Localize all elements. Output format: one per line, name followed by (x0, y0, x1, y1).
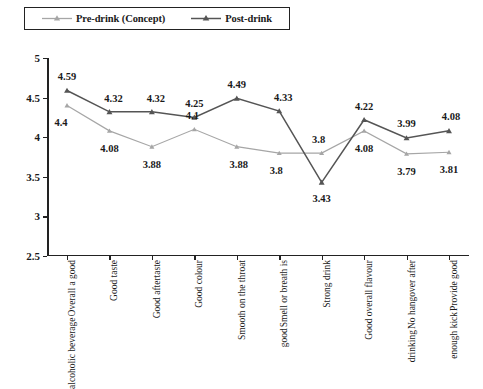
series-line (67, 106, 449, 154)
x-category-label-line: good (279, 328, 290, 347)
x-category-label-line: Smell or breath is (279, 260, 290, 327)
y-tick-label: 4.5 (26, 92, 40, 104)
x-category-label-line: enough kick (449, 312, 460, 359)
x-category-label-line: Provide good (449, 260, 460, 311)
value-label: 4.4 (54, 116, 67, 127)
x-category-label-line: Good colour (194, 260, 205, 308)
x-category-label: Good overall flavour (364, 260, 375, 340)
x-category-label-line: drinking (407, 330, 418, 362)
legend-label-pre-drink: Pre-drink (Concept) (76, 13, 165, 24)
y-tick-label: 3.5 (26, 171, 40, 183)
series-pre-drink (64, 103, 451, 156)
value-label: 3.79 (397, 165, 415, 176)
value-label: 4.32 (104, 92, 122, 103)
value-label: 4.25 (185, 98, 203, 109)
x-category-label: Good taste (109, 260, 120, 301)
value-label: 3.88 (143, 158, 161, 169)
value-label: 3.8 (270, 165, 283, 176)
x-category-label: Smell or breath isgood (279, 260, 290, 347)
x-category-label: Strong drink (322, 260, 333, 308)
x-category-label: Overall a goodalcoholic beverage (67, 260, 78, 389)
x-category-label-line: alcoholic beverage (67, 317, 78, 388)
data-point-marker (64, 103, 69, 107)
x-category-label: Smooth on the throat (237, 260, 248, 340)
y-tick-label: 4 (35, 131, 41, 143)
y-tick-label: 5 (35, 52, 41, 64)
value-label: 3.8 (312, 134, 325, 145)
x-category-label-line: Strong drink (322, 260, 333, 308)
x-category-label-line: Smooth on the throat (237, 260, 248, 340)
value-label: 4.59 (58, 71, 76, 82)
series-lines (47, 58, 469, 256)
x-category-label-line: Good overall flavour (364, 260, 375, 340)
value-label: 4.08 (442, 110, 460, 121)
y-tick-mark (43, 256, 47, 257)
y-tick-label: 3 (35, 210, 41, 222)
value-label: 3.99 (397, 117, 415, 128)
x-axis-category-labels: Overall a goodalcoholic beverageGood tas… (47, 260, 469, 364)
value-label: 4.1 (186, 110, 199, 121)
y-tick-label: 2.5 (26, 250, 40, 262)
value-label: 4.33 (274, 92, 292, 103)
legend-marker-pre-drink (42, 14, 72, 23)
x-category-label-line: Good taste (109, 260, 120, 301)
value-label: 3.43 (312, 193, 330, 204)
chart-legend: Pre-drink (Concept) Post-drink (24, 7, 290, 30)
x-category-label: No hangover afterdrinking (407, 260, 418, 362)
data-point-marker (234, 96, 240, 101)
value-label: 4.22 (355, 100, 373, 111)
data-point-marker (64, 88, 70, 93)
x-category-label: Good aftertaste (152, 260, 163, 318)
data-point-marker (361, 117, 367, 122)
legend-marker-post-drink (191, 14, 221, 23)
x-category-label: Provide goodenough kick (449, 260, 460, 359)
value-label: 4.08 (355, 142, 373, 153)
legend-entry-pre-drink: Pre-drink (Concept) (42, 13, 165, 24)
value-label: 4.08 (100, 142, 118, 153)
legend-label-post-drink: Post-drink (225, 13, 272, 24)
data-point-marker (192, 127, 197, 131)
value-label: 3.81 (440, 164, 458, 175)
x-category-label: Good colour (194, 260, 205, 308)
value-label: 4.49 (228, 79, 246, 90)
plot-area: 2.533.544.55 4.44.083.884.13.883.83.84.0… (47, 58, 469, 256)
value-label: 3.88 (230, 158, 248, 169)
data-point-marker (362, 128, 367, 132)
value-label: 4.32 (147, 92, 165, 103)
x-category-label-line: No hangover after (407, 260, 418, 329)
x-category-label-line: Good aftertaste (152, 260, 163, 318)
legend-entry-post-drink: Post-drink (191, 13, 272, 24)
x-category-label-line: Overall a good (67, 260, 78, 316)
